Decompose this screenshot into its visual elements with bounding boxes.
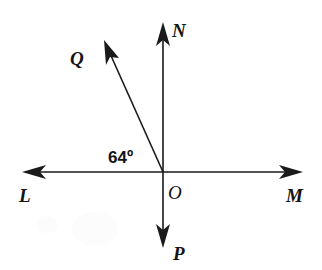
arrow-head-q-icon <box>104 40 119 65</box>
label-q: Q <box>70 48 84 69</box>
label-p: P <box>172 243 185 264</box>
label-m: M <box>285 185 304 206</box>
label-o: O <box>168 182 182 203</box>
label-n: N <box>171 20 187 41</box>
label-l: L <box>18 185 31 206</box>
geometry-diagram: N Q L M P O 64º <box>0 0 322 270</box>
diagram-canvas: N Q L M P O 64º <box>0 0 322 270</box>
angle-measure-label: 64º <box>108 148 133 167</box>
